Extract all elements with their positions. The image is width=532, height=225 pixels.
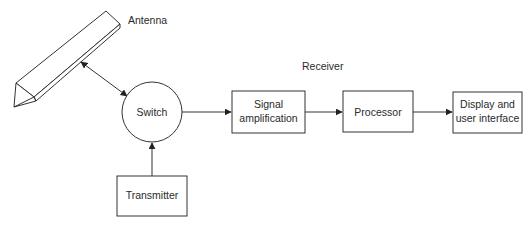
switch-label: Switch (137, 106, 168, 118)
receiver-label: Receiver (302, 60, 344, 72)
signal-amplification-node: Signal amplification (232, 91, 305, 133)
radio-system-block-diagram: Antenna Switch Transmitter Receiver Sign… (0, 0, 532, 225)
transmitter-node: Transmitter (117, 176, 187, 216)
antenna-icon (14, 11, 120, 107)
switch-node: Switch (122, 82, 182, 142)
signal-amplification-label-line2: amplification (239, 112, 298, 124)
processor-label: Processor (354, 106, 402, 118)
signal-amplification-label-line1: Signal (254, 98, 283, 110)
processor-node: Processor (343, 91, 413, 132)
antenna-label: Antenna (128, 14, 167, 26)
antenna-switch-arrow (81, 62, 127, 96)
display-node: Display and user interface (453, 92, 522, 133)
display-label-line1: Display and (460, 98, 515, 110)
display-label-line2: user interface (456, 112, 520, 124)
transmitter-label: Transmitter (126, 189, 179, 201)
